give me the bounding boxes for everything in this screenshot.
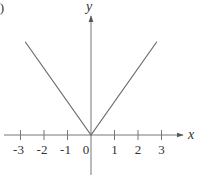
x-tick-label: 1 <box>111 142 118 157</box>
x-axis-tick-labels: -3-2-10123 <box>13 142 165 157</box>
x-tick-label: -2 <box>37 142 48 157</box>
x-tick-label: 0 <box>83 142 90 157</box>
x-tick-label: 2 <box>135 142 142 157</box>
x-axis-label: x <box>187 127 195 142</box>
x-tick-label: 3 <box>158 142 165 157</box>
panel-label: a) <box>0 0 4 15</box>
y-axis-label: y <box>84 0 93 14</box>
absolute-value-graph: a) -3-2-10123 x y <box>0 0 197 175</box>
x-tick-label: -3 <box>13 142 24 157</box>
x-tick-label: -1 <box>60 142 71 157</box>
